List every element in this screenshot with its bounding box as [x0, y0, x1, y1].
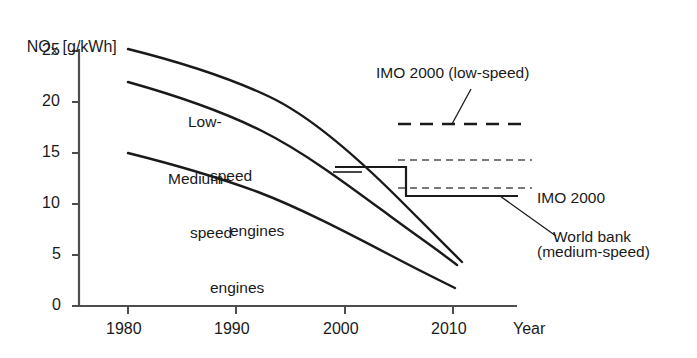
annotation-medium-speed-engines: Medium- speed engines	[168, 133, 264, 334]
y-tick-label-5: 5	[52, 245, 61, 264]
leader-line-imo-low-speed	[452, 89, 471, 124]
x-tick-label-1980: 1980	[106, 320, 142, 339]
y-tick-label-20: 20	[42, 92, 60, 111]
annotation-low-speed-line1: Low-	[188, 113, 284, 131]
y-tick-label-0: 0	[52, 296, 61, 315]
x-axis-title: Year	[513, 320, 545, 339]
annotation-medium-speed-line3: engines	[210, 279, 264, 297]
annotation-medium-speed-line1: Medium-	[168, 170, 264, 188]
world-bank-step-line	[335, 167, 518, 196]
y-tick-label-10: 10	[42, 194, 60, 213]
annotation-medium-speed-line2: speed	[190, 224, 264, 242]
x-tick-label-2010: 2010	[431, 320, 467, 339]
x-tick-label-2000: 2000	[323, 320, 359, 339]
y-axis-title: NOX [g/kWh]	[9, 19, 117, 76]
annotation-imo-2000-medium-speed: IMO 2000 (medium-speed)	[537, 152, 650, 298]
nox-emissions-chart: NOX [g/kWh] 25 20 15 10 5 0 1980 1990 20…	[0, 0, 697, 358]
y-axis-title-unit: [g/kWh]	[58, 38, 117, 55]
annotation-imo-medium-line1: IMO 2000	[537, 189, 650, 207]
y-tick-label-15: 15	[42, 143, 60, 162]
annotation-world-bank: World bank	[553, 228, 631, 246]
annotation-imo-2000-low-speed: IMO 2000 (low-speed)	[376, 64, 529, 82]
y-tick-label-25: 25	[42, 41, 60, 60]
